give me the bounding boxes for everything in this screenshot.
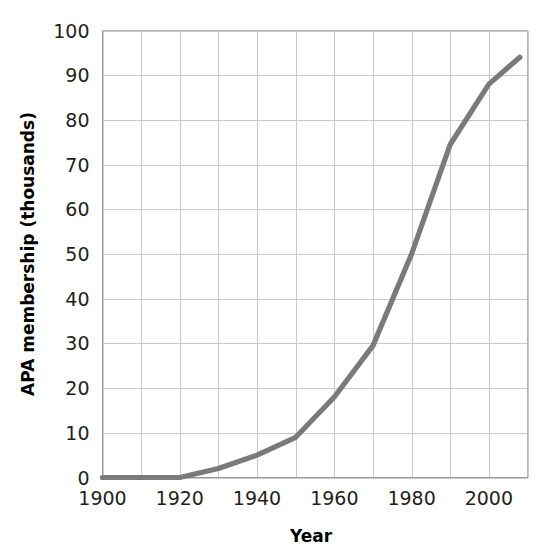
x-tick-label: 1960 bbox=[310, 487, 358, 509]
y-tick-label: 30 bbox=[65, 332, 89, 354]
x-tick-label: 1900 bbox=[78, 487, 126, 509]
y-tick-label: 50 bbox=[65, 243, 89, 265]
y-tick-label: 0 bbox=[77, 467, 89, 489]
x-tick-label: 1980 bbox=[387, 487, 435, 509]
y-tick-label: 40 bbox=[65, 288, 89, 310]
y-tick-label: 20 bbox=[65, 377, 89, 399]
y-tick-label: 90 bbox=[65, 64, 89, 86]
y-tick-label: 70 bbox=[65, 154, 89, 176]
line-chart: 0102030405060708090100 19001920194019601… bbox=[0, 0, 552, 557]
y-tick-label: 10 bbox=[65, 422, 89, 444]
x-tick-label: 1920 bbox=[156, 487, 204, 509]
x-axis-title: Year bbox=[289, 526, 333, 546]
y-tick-label: 100 bbox=[53, 20, 89, 42]
y-axis-title: APA membership (thousands) bbox=[18, 112, 38, 396]
x-tick-label: 1940 bbox=[233, 487, 281, 509]
y-tick-label: 80 bbox=[65, 109, 89, 131]
chart-container: 0102030405060708090100 19001920194019601… bbox=[0, 0, 552, 557]
y-tick-label: 60 bbox=[65, 198, 89, 220]
x-tick-label: 2000 bbox=[465, 487, 513, 509]
